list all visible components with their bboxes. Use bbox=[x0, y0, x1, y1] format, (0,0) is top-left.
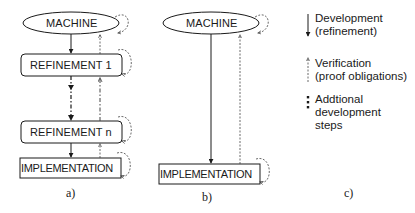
legend-development-line1: Development bbox=[315, 12, 383, 25]
label-machine-a: MACHINE bbox=[46, 17, 97, 29]
caption-b: b) bbox=[202, 190, 212, 205]
legend-development-line2: (refinement) bbox=[315, 25, 383, 38]
label-implementation-b: IMPLEMENTATION bbox=[160, 168, 252, 180]
diagram-a bbox=[20, 12, 131, 178]
dashed-dots-icon bbox=[307, 96, 309, 108]
label-refinementn: REFINEMENT n bbox=[30, 126, 112, 138]
legend-additional-line1: Addtional bbox=[315, 93, 381, 106]
label-implementation-a: IMPLEMENTATION bbox=[21, 162, 113, 174]
legend-verification-line2: (proof obligations) bbox=[315, 70, 407, 83]
legend-verification: Verification (proof obligations) bbox=[315, 57, 407, 83]
caption-c: c) bbox=[344, 186, 353, 201]
caption-a: a) bbox=[66, 186, 75, 201]
diagram-b bbox=[159, 12, 269, 184]
legend-additional-line2: development bbox=[315, 106, 381, 119]
label-machine-b: MACHINE bbox=[186, 17, 237, 29]
legend bbox=[307, 14, 309, 108]
legend-additional-steps: Addtional development steps bbox=[315, 93, 381, 132]
legend-verification-line1: Verification bbox=[315, 57, 407, 70]
label-refinement1: REFINEMENT 1 bbox=[30, 59, 112, 71]
legend-additional-line3: steps bbox=[315, 119, 381, 132]
legend-development: Development (refinement) bbox=[315, 12, 383, 38]
